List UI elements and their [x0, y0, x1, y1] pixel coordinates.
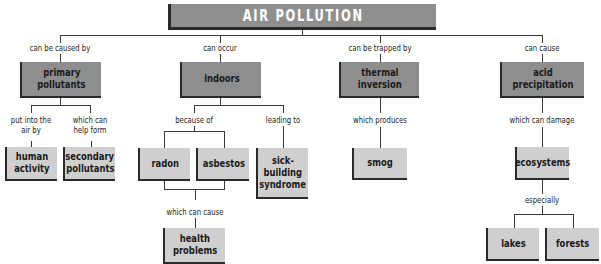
node-forests: forests	[545, 228, 599, 261]
link-label-which-can-help-form-2: help form	[65, 125, 116, 135]
connector	[60, 98, 61, 105]
connector	[220, 35, 221, 43]
node-sick-building-syndrome: sick- building syndrome	[256, 148, 308, 199]
connector	[542, 54, 543, 62]
node-text: problems	[173, 245, 217, 257]
node-text: activity	[14, 163, 49, 175]
connector	[283, 126, 284, 148]
connector	[90, 105, 91, 113]
node-text: indoors	[204, 73, 240, 85]
node-secondary-pollutants: secondary pollutants	[63, 147, 115, 181]
node-text: syndrome	[260, 179, 307, 191]
node-text: radon	[151, 158, 179, 170]
node-human-activity: human activity	[5, 147, 57, 181]
connector	[380, 35, 381, 43]
connector	[195, 218, 196, 228]
title-text: AIR POLLUTION	[243, 10, 364, 22]
connector	[542, 206, 543, 214]
link-label-which-can-damage: which can damage	[504, 115, 581, 125]
connector	[380, 54, 381, 62]
connector	[542, 35, 543, 43]
link-label-can-be-caused-by: can be caused by	[26, 43, 94, 53]
connector	[194, 105, 195, 113]
connector	[542, 98, 543, 113]
node-text: acid precipitation	[508, 67, 578, 91]
link-label-put-into-air-by: put into the	[6, 115, 57, 125]
link-label-put-into-air-by-2: air by	[6, 125, 57, 135]
connector	[164, 181, 165, 189]
node-asbestos: asbestos	[196, 148, 249, 181]
connector	[60, 54, 61, 62]
connector	[194, 105, 284, 106]
connector	[283, 105, 284, 113]
node-text: asbestos	[202, 158, 244, 170]
connector	[380, 127, 381, 148]
node-thermal-inversion: thermal inversion	[339, 62, 419, 98]
connector	[60, 35, 543, 36]
node-ecosystems: ecosystems	[515, 147, 569, 180]
link-label-especially: especially	[517, 195, 568, 205]
connector	[164, 131, 165, 148]
connector	[60, 35, 61, 43]
connector	[220, 98, 221, 105]
connector	[514, 214, 515, 228]
link-label-which-can-help-form: which can	[65, 115, 116, 125]
link-label-because-of: because of	[169, 115, 220, 125]
connector	[224, 181, 225, 189]
link-label-can-be-trapped-by: can be trapped by	[342, 43, 419, 53]
node-primary-pollutants: primary pollutants	[20, 62, 101, 98]
connector	[542, 127, 543, 148]
node-text: lakes	[501, 238, 526, 250]
connector	[220, 54, 221, 62]
node-text: smog	[368, 157, 394, 169]
node-acid-precipitation: acid precipitation	[500, 62, 584, 98]
connector	[380, 98, 381, 113]
connector	[195, 189, 196, 200]
link-label-which-can-cause: which can cause	[165, 207, 225, 217]
node-radon: radon	[138, 148, 190, 181]
connector	[31, 105, 32, 113]
title-node-air-pollution: AIR POLLUTION	[168, 4, 436, 30]
node-text: ecosystems	[515, 157, 570, 169]
node-text: inversion	[358, 79, 402, 91]
node-text: pollutants	[37, 79, 85, 91]
link-label-which-produces: which produces	[346, 115, 414, 125]
node-indoors: indoors	[180, 62, 261, 98]
node-health-problems: health problems	[163, 228, 225, 264]
connector	[542, 180, 543, 194]
node-text: pollutants	[66, 163, 114, 175]
link-label-can-cause: can cause	[508, 43, 576, 53]
link-label-can-occur: can occur	[186, 43, 254, 53]
connector	[224, 131, 225, 148]
node-lakes: lakes	[486, 228, 539, 261]
link-label-leading-to: leading to	[258, 115, 309, 125]
node-smog: smog	[352, 148, 407, 180]
connector	[514, 214, 574, 215]
connector	[573, 214, 574, 228]
node-text: forests	[556, 238, 589, 250]
connector	[31, 105, 91, 106]
connector	[164, 131, 224, 132]
